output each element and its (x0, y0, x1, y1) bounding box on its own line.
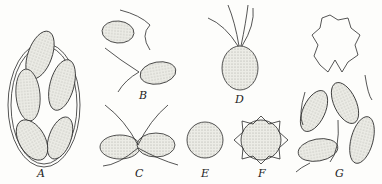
panel-a-cyst (8, 27, 80, 167)
label-e: E (201, 168, 209, 179)
panel-d-quadriflagellate (208, 5, 258, 90)
label-d: D (235, 94, 244, 105)
panel-g-cyst-and-cells (295, 15, 379, 172)
panel-e-round-cell (187, 122, 223, 158)
label-b: B (139, 90, 147, 101)
label-a: A (37, 168, 45, 179)
panel-b-cells (101, 10, 178, 92)
panel-f-spiny-cyst (234, 116, 288, 164)
label-g: G (335, 168, 344, 179)
label-f: F (258, 168, 266, 179)
flagellate-figure-plate: A B C D E F G (0, 0, 382, 184)
panel-c-dividing (100, 105, 178, 166)
label-c: C (135, 168, 143, 179)
illustration-canvas (0, 0, 382, 184)
